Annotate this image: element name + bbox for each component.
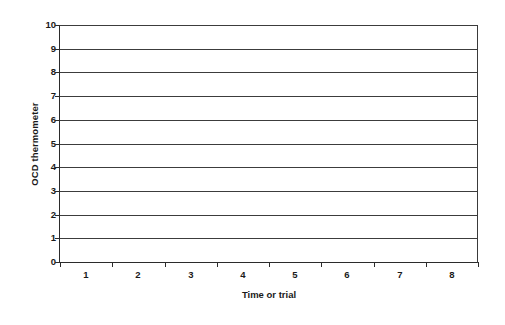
y-tick-label: 5 bbox=[38, 139, 56, 149]
chart-container: OCD thermometer 109876543210 12345678 Ti… bbox=[0, 0, 505, 325]
x-tick-label: 6 bbox=[327, 269, 367, 281]
y-tick-label: 0 bbox=[38, 257, 56, 267]
gridline bbox=[60, 144, 478, 145]
y-tick-label: 7 bbox=[38, 91, 56, 101]
gridline bbox=[60, 49, 478, 50]
y-tick-label: 2 bbox=[38, 210, 56, 220]
gridline bbox=[60, 215, 478, 216]
y-tick-label: 9 bbox=[38, 44, 56, 54]
gridline bbox=[60, 120, 478, 121]
x-tick-label: 4 bbox=[223, 269, 263, 281]
x-tick-label: 7 bbox=[380, 269, 420, 281]
plot-right-border bbox=[477, 25, 478, 263]
gridline bbox=[60, 191, 478, 192]
gridline bbox=[60, 238, 478, 239]
y-tick-label: 3 bbox=[38, 186, 56, 196]
x-tick-label: 2 bbox=[118, 269, 158, 281]
gridline bbox=[60, 72, 478, 73]
y-tick-label: 1 bbox=[38, 233, 56, 243]
y-axis-line bbox=[59, 25, 60, 263]
x-axis-line bbox=[60, 262, 479, 263]
x-tick-label: 3 bbox=[171, 269, 211, 281]
gridline bbox=[60, 167, 478, 168]
x-tick-label: 8 bbox=[432, 269, 472, 281]
x-tick-label: 5 bbox=[275, 269, 315, 281]
y-tick-label: 4 bbox=[38, 162, 56, 172]
gridline bbox=[60, 96, 478, 97]
gridline bbox=[60, 25, 478, 26]
y-axis-tick-label-group: 109876543210 bbox=[38, 25, 56, 262]
y-tick-label: 10 bbox=[38, 20, 56, 30]
y-tick-label: 6 bbox=[38, 115, 56, 125]
x-axis-title: Time or trial bbox=[60, 289, 478, 301]
y-tick-label: 8 bbox=[38, 67, 56, 77]
x-tick-label: 1 bbox=[66, 269, 106, 281]
